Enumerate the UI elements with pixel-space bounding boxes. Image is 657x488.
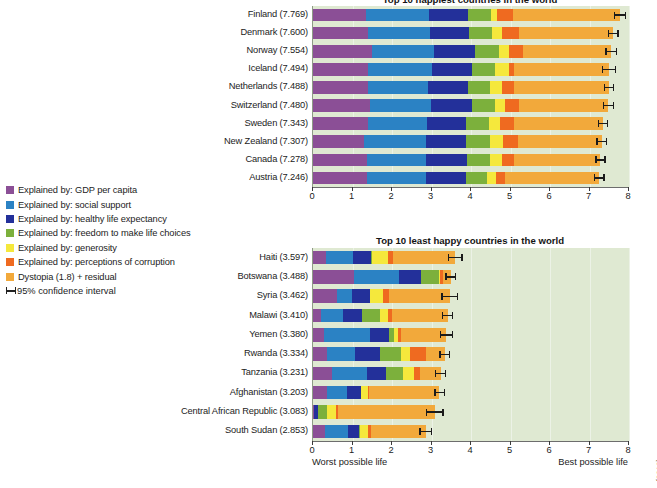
bar-segment: [313, 347, 327, 361]
category-label: Denmark (7.600): [240, 27, 308, 37]
bar-segment: [500, 117, 515, 130]
chart-bottom-labels: Haiti (3.597)Botswana (3.488)Syria (3.46…: [0, 248, 308, 441]
bar-segment: [514, 63, 609, 76]
error-bar: [608, 30, 619, 37]
axis-tick-label: 0: [309, 445, 314, 455]
category-label: Haiti (3.597): [259, 252, 308, 262]
bar-0-4: [313, 81, 609, 94]
error-bar: [602, 66, 616, 73]
error-bar: [596, 138, 607, 145]
bar-0-1: [313, 27, 613, 40]
chart-top-happiest: Top 10 happiest countries in the world F…: [0, 0, 657, 215]
bar-segment: [326, 251, 353, 265]
bar-segment: [313, 9, 366, 22]
category-label: Austria (7.246): [249, 172, 308, 182]
axis-tick-label: 4: [467, 191, 472, 201]
bar-segment: [426, 154, 467, 167]
bar-segment: [496, 172, 505, 185]
error-bar: [445, 273, 456, 280]
category-label: Afghanistan (3.203): [230, 387, 308, 397]
bar-segment: [427, 117, 467, 130]
bar-segment: [472, 99, 495, 112]
category-label: Botswana (3.488): [238, 271, 308, 281]
bar-segment: [502, 81, 514, 94]
category-label: Canada (7.278): [245, 154, 308, 164]
bar-0-3: [313, 63, 609, 76]
category-label: Yemen (3.380): [249, 329, 308, 339]
error-bar: [605, 48, 617, 55]
bar-0-5: [313, 99, 608, 112]
bar-segment: [519, 99, 609, 112]
category-label: Netherlands (7.488): [229, 81, 308, 91]
bar-segment: [466, 172, 487, 185]
bar-segment: [392, 309, 448, 323]
category-label: Sweden (7.343): [244, 118, 308, 128]
bar-segment: [469, 27, 492, 40]
bar-segment: [472, 63, 495, 76]
bar-segment: [514, 154, 601, 167]
bar-segment: [367, 154, 426, 167]
axis-tick-label: 3: [428, 191, 433, 201]
bar-segment: [430, 27, 469, 40]
axis-tick-label: 8: [625, 191, 630, 201]
chart-bottom-title: Top 10 least happy countries in the worl…: [312, 235, 628, 246]
category-label: Rwanda (3.334): [244, 348, 308, 358]
bar-segment: [327, 347, 355, 361]
bar-segment: [421, 270, 439, 284]
chart-top-x-axis: 012345678: [312, 187, 628, 203]
bar-segment: [489, 117, 500, 130]
axis-tick-label: 0: [309, 191, 314, 201]
bar-segment: [386, 367, 402, 381]
bar-segment: [490, 81, 503, 94]
bar-segment: [327, 405, 336, 419]
bar-segment: [475, 45, 499, 58]
bar-1-2: [313, 289, 450, 303]
bar-segment: [428, 81, 467, 94]
bar-segment: [367, 172, 425, 185]
bar-segment: [492, 27, 502, 40]
bar-segment: [431, 99, 473, 112]
bar-segment: [519, 27, 614, 40]
chart-top-labels: Finland (7.769)Denmark (7.600)Norway (7.…: [0, 6, 308, 187]
bar-segment: [514, 81, 609, 94]
axis-tick-label: 6: [546, 445, 551, 455]
category-label: Tanzania (3.231): [241, 367, 308, 377]
category-label: Iceland (7.494): [248, 63, 308, 73]
bar-segment: [368, 63, 432, 76]
bar-segment: [514, 117, 603, 130]
bar-segment: [313, 309, 321, 323]
bar-segment: [324, 328, 370, 342]
bar-segment: [364, 135, 426, 148]
bar-segment: [352, 289, 369, 303]
bar-segment: [426, 135, 467, 148]
bar-segment: [503, 135, 518, 148]
bar-segment: [502, 154, 514, 167]
error-bar: [426, 409, 444, 416]
bar-segment: [372, 45, 434, 58]
bar-1-0: [313, 251, 455, 265]
bar-segment: [332, 367, 367, 381]
bar-segment: [410, 347, 426, 361]
axis-tick-label: 1: [349, 445, 354, 455]
bar-segment: [466, 135, 489, 148]
axis-tick-label: 6: [546, 191, 551, 201]
bar-segment: [505, 99, 519, 112]
bar-segment: [518, 135, 602, 148]
bar-segment: [313, 99, 370, 112]
category-label: Central African Republic (3.083): [181, 406, 308, 416]
bar-0-6: [313, 117, 603, 130]
bar-segment: [367, 367, 387, 381]
category-label: New Zealand (7.307): [224, 136, 308, 146]
bar-segment: [313, 289, 337, 303]
bar-segment: [313, 367, 332, 381]
bar-segment: [354, 270, 399, 284]
bar-segment: [380, 347, 402, 361]
error-bar: [594, 174, 605, 181]
bar-segment: [313, 27, 368, 40]
error-bar: [441, 293, 458, 300]
bar-segment: [403, 367, 414, 381]
axis-tick-label: 7: [586, 191, 591, 201]
bar-segment: [490, 154, 501, 167]
gridline: [471, 248, 472, 441]
chart-top-plot-area: [312, 6, 629, 187]
